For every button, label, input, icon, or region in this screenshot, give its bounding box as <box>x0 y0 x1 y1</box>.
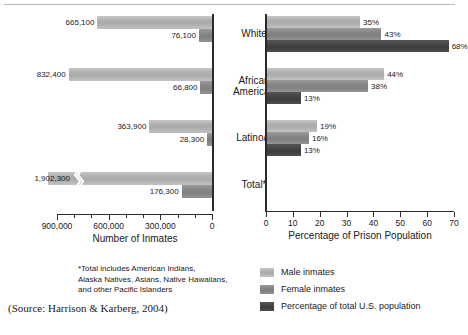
legend-label-male: Male inmates <box>281 266 335 278</box>
right-axis-tick-label: 0 <box>252 218 280 228</box>
footnote-line-3: and other Pacific Islanders <box>78 285 227 296</box>
source-citation: (Source: Harrison & Karberg, 2004) <box>8 302 168 315</box>
legend-label-female: Female inmates <box>281 283 345 295</box>
left-axis-tick-label: 900,000 <box>31 221 83 231</box>
left-chart-axis-title: Number of Inmates <box>55 233 215 245</box>
footnote-line-2: Alaska Natives, Asians, Native Hawaiians… <box>78 275 227 286</box>
right-chart: 35%43%68%44%38%13%19%16%13% 010203040506… <box>260 0 459 250</box>
legend-label-uspop: Percentage of total U.S. population <box>281 300 421 312</box>
footnote: *Total includes American Indians, Alaska… <box>78 264 227 296</box>
right-axis-tick-label: 10 <box>279 218 307 228</box>
right-axis-tick-label: 40 <box>359 218 387 228</box>
legend-swatch-female <box>260 285 274 294</box>
right-axis-tick-label: 30 <box>333 218 361 228</box>
right-axis-tick-label: 20 <box>306 218 334 228</box>
right-axis-tick-label: 60 <box>413 218 441 228</box>
right-chart-tick-labels: 010203040506070 <box>260 0 459 240</box>
right-axis-tick-label: 50 <box>386 218 414 228</box>
left-axis-tick-label: 0 <box>186 221 238 231</box>
right-chart-axis-title: Percentage of Prison Population <box>270 230 450 242</box>
legend-swatch-male <box>260 268 274 277</box>
right-axis-tick-label: 70 <box>440 218 468 228</box>
left-axis-tick-label: 600,000 <box>83 221 135 231</box>
left-axis-tick-label: 300,000 <box>134 221 186 231</box>
footnote-line-1: *Total includes American Indians, <box>78 264 227 275</box>
legend-swatch-uspop <box>260 302 274 311</box>
